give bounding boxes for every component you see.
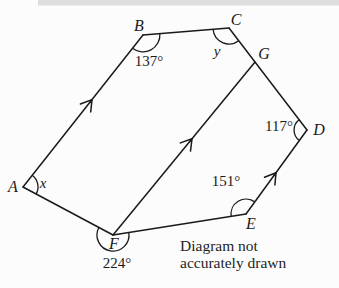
- polygon-diagram-svg: A B C D E F G x 137° y 117° 151° 224° Di…: [0, 0, 339, 288]
- parallel-marks: [90, 100, 276, 176]
- vertex-label-d: D: [312, 121, 325, 138]
- vertex-label-f: F: [108, 235, 119, 252]
- parallel-arrow-ab-icon: [90, 100, 92, 103]
- parallel-arrow-ed-icon: [274, 173, 276, 176]
- vertex-label-c: C: [231, 11, 242, 28]
- geometry-figure: A B C D E F G x 137° y 117° 151° 224° Di…: [0, 0, 339, 288]
- angle-label-x: x: [39, 175, 47, 191]
- vertex-label-e: E: [245, 215, 256, 232]
- angle-arcs: [32, 29, 299, 251]
- edge-ef: [113, 214, 246, 235]
- note-line-1: Diagram not: [180, 237, 259, 254]
- angle-label-117: 117°: [265, 118, 293, 134]
- vertex-label-g: G: [258, 45, 270, 62]
- edge-bc: [143, 28, 229, 35]
- note-line-2: accurately drawn: [180, 254, 287, 271]
- angle-arc-d: [294, 120, 299, 141]
- edge-ab: [23, 35, 143, 187]
- caption-note: Diagram not accurately drawn: [180, 237, 287, 271]
- edge-fg-transversal: [113, 62, 255, 235]
- angle-label-137: 137°: [135, 53, 164, 69]
- angle-arc-a: [32, 175, 38, 194]
- vertex-label-a: A: [7, 178, 18, 195]
- angle-label-151: 151°: [212, 173, 241, 189]
- angle-label-y: y: [212, 43, 221, 59]
- angle-label-224: 224°: [103, 255, 132, 271]
- parallel-arrow-fg-icon: [190, 139, 193, 142]
- scan-artifact-band: [38, 0, 339, 6]
- vertex-label-b: B: [134, 17, 144, 34]
